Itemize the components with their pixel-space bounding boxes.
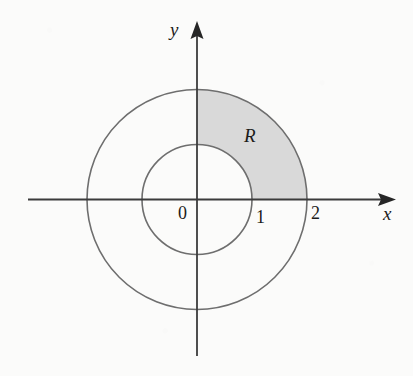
x-tick-label-2: 2 (311, 204, 320, 222)
region-label-r: R (244, 126, 256, 145)
y-axis-label: y (170, 20, 178, 39)
origin-tick-label: 0 (178, 204, 187, 222)
annulus-region-figure: y x 0 1 2 R (0, 0, 413, 376)
plot-canvas (0, 0, 413, 376)
x-tick-label-1: 1 (256, 208, 265, 226)
x-axis-label: x (383, 204, 391, 223)
